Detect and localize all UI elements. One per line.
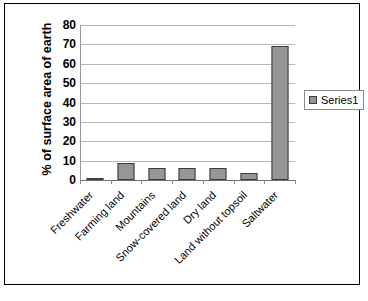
x-tick-mark	[80, 180, 81, 184]
x-axis-category-labels: FreshwaterFarming landMountainsSnow-cove…	[5, 185, 361, 280]
x-axis-label-0: Freshwater	[0, 189, 96, 301]
y-tick-label-30: 30	[50, 116, 76, 128]
y-tick-label-40: 40	[50, 97, 76, 109]
bar-slot	[172, 25, 203, 180]
bar-slot	[111, 25, 142, 180]
x-tick-mark	[203, 180, 204, 184]
bar[interactable]	[210, 168, 227, 180]
x-tick-mark	[295, 180, 296, 184]
x-tick-mark	[141, 180, 142, 184]
x-tick-mark	[264, 180, 265, 184]
legend-swatch-icon	[309, 96, 317, 104]
bar-slot	[80, 25, 111, 180]
bar-series-group	[80, 25, 295, 180]
y-tick-label-60: 60	[50, 58, 76, 70]
bar[interactable]	[118, 163, 135, 180]
chart-frame: % of surface area of earth 8070605040302…	[4, 3, 360, 285]
bar[interactable]	[148, 168, 165, 180]
y-tick-label-10: 10	[50, 155, 76, 167]
x-tick-mark	[172, 180, 173, 184]
bar[interactable]	[240, 173, 257, 180]
x-tick-mark	[111, 180, 112, 184]
y-tick-label-80: 80	[50, 19, 76, 31]
y-tick-label-20: 20	[50, 135, 76, 147]
legend-label: Series1	[321, 94, 358, 106]
chart-legend[interactable]: Series1	[304, 90, 364, 110]
y-tick-label-50: 50	[50, 77, 76, 89]
bar-slot	[234, 25, 265, 180]
bar-slot	[141, 25, 172, 180]
y-tick-label-70: 70	[50, 38, 76, 50]
bar-slot	[264, 25, 295, 180]
bar[interactable]	[271, 46, 288, 180]
x-tick-mark	[234, 180, 235, 184]
bar[interactable]	[179, 168, 196, 180]
figure-caption	[0, 289, 368, 301]
bar-slot	[203, 25, 234, 180]
